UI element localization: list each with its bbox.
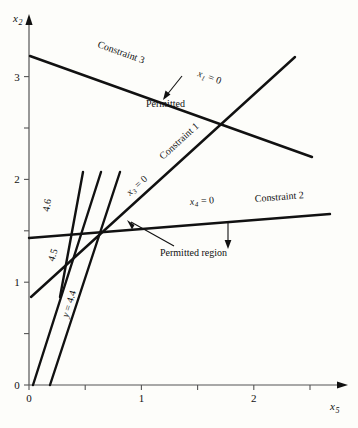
x-tick-label-2: 2 — [251, 392, 257, 404]
x-axis-title-sub: 5 — [335, 406, 339, 415]
permitted-region-label: Permitted region — [160, 247, 227, 258]
plot-canvas: 0 1 2 3 0 1 2 x2 x5 — [0, 0, 358, 428]
y-axis-title-var: x — [12, 12, 18, 24]
constraint-lines-group — [29, 56, 330, 297]
permitted-region-arrow-line-a — [131, 222, 174, 246]
permitted-label: Permitted — [146, 98, 185, 109]
y-tick-label-3: 3 — [14, 71, 20, 83]
y-tick-label-2: 2 — [14, 173, 20, 185]
x-tick-label-1: 1 — [139, 392, 145, 404]
x-axis-title: x5 — [329, 400, 339, 415]
constraint-1-line — [31, 57, 295, 297]
objective-label-4-6: 4.6 — [40, 198, 53, 212]
permitted-region-arrowhead-a — [127, 220, 135, 230]
constraint-2-label: Constraint 2 — [254, 189, 304, 204]
objective-line-4-4 — [50, 172, 120, 385]
annotations-group: Constraint 3 x1 = 0 Permitted Constraint… — [40, 39, 304, 320]
linear-programming-graph: 0 1 2 3 0 1 2 x2 x5 — [0, 0, 358, 428]
y-axis-title-sub: 2 — [18, 18, 22, 27]
x1-zero-eq: = 0 — [205, 70, 223, 86]
x4-zero-label: x4 = 0 — [188, 194, 214, 209]
constraint-1-label: Constraint 1 — [157, 120, 201, 161]
x-axis-arrowhead — [337, 381, 348, 388]
y-axis-arrowhead — [25, 14, 32, 25]
x-axis-title-var: x — [329, 400, 335, 412]
x-tick-label-0: 0 — [26, 392, 32, 404]
constraint-3-label: Constraint 3 — [96, 39, 146, 66]
x4-zero-eq: = 0 — [198, 194, 214, 206]
x1-zero-label: x1 = 0 — [195, 67, 223, 88]
x3-zero-label: x3 = 0 — [123, 173, 151, 200]
y-tick-label-1: 1 — [14, 276, 20, 288]
y-tick-label-0: 0 — [14, 379, 20, 391]
y-axis-title: x2 — [12, 12, 22, 27]
objective-label-4-5: 4.5 — [45, 247, 59, 262]
